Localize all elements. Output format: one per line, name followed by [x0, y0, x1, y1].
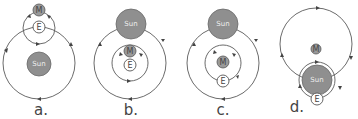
arrow-icon [232, 53, 236, 57]
sun-label: Sun [124, 20, 137, 28]
option-b[interactable]: Sun M E b. [94, 9, 166, 119]
arrow-icon [298, 84, 302, 88]
arrow-icon [213, 50, 217, 54]
arrow-icon [119, 52, 123, 56]
arrow-icon [161, 39, 165, 42]
arrow-icon [127, 79, 131, 83]
arrow-icon [316, 6, 320, 10]
arrow-icon [139, 53, 143, 57]
option-a[interactable]: Sun M E a. [3, 4, 75, 119]
arrow-icon [254, 39, 258, 42]
sun-label: Sun [310, 76, 323, 84]
earth-label: E [36, 23, 41, 32]
arrow-icon [36, 42, 40, 46]
moon-label: M [313, 45, 320, 54]
orbit-diagram: Sun M E a. Sun M E b. Sun M [0, 0, 358, 119]
earth-label: E [314, 95, 319, 104]
option-c[interactable]: Sun M E c. [187, 9, 259, 119]
arrow-icon [280, 53, 284, 57]
arrow-icon [338, 86, 342, 90]
moon-label: M [127, 47, 134, 56]
arrow-icon [315, 60, 319, 64]
sun-label: Sun [32, 60, 45, 68]
sun-label: Sun [216, 20, 229, 28]
caption-d: d. [290, 98, 304, 116]
caption-b: b. [124, 101, 138, 119]
moon-label: M [220, 58, 227, 67]
option-d[interactable]: M Sun E d. [280, 6, 353, 116]
earth-label: E [220, 77, 225, 86]
earth-label: E [127, 61, 132, 70]
caption-a: a. [34, 101, 48, 119]
caption-c: c. [216, 101, 229, 119]
arrow-icon [98, 42, 102, 46]
moon-label: M [36, 6, 43, 15]
